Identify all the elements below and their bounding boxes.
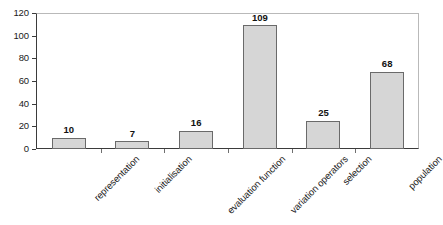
bar-value-label: 7 [130, 129, 135, 139]
y-axis-tick-label: 20 [19, 122, 29, 132]
bar-value-label: 109 [252, 13, 268, 23]
x-axis-labels: representationinitialisationevaluation f… [37, 154, 419, 225]
y-axis-tick-label: 120 [13, 8, 29, 18]
y-axis-tick-label: 0 [24, 144, 29, 154]
x-axis-category-label: representation [93, 154, 142, 203]
y-axis-tick-mark [32, 58, 36, 59]
bar [52, 138, 86, 149]
bar [179, 131, 213, 149]
x-axis-category-label: evaluation function [225, 154, 286, 215]
bar [115, 141, 149, 149]
bar [370, 72, 404, 149]
bar-group: 109 [228, 13, 292, 149]
bar-value-label: 68 [382, 59, 393, 69]
bar-group: 16 [164, 13, 228, 149]
y-axis-tick-mark [32, 81, 36, 82]
x-axis-tick-mark [101, 149, 102, 153]
y-axis-tick-mark [32, 126, 36, 127]
y-axis-tick-label: 40 [19, 99, 29, 109]
y-axis-tick-label: 60 [19, 76, 29, 86]
bar-group: 25 [292, 13, 356, 149]
y-axis: 020406080100120 [0, 0, 36, 162]
x-axis-tick-mark [164, 149, 165, 153]
y-axis-tick-mark [32, 13, 36, 14]
y-axis-tick-mark [32, 104, 36, 105]
bars-layer: 107161092568 [37, 13, 419, 149]
y-axis-tick-label: 80 [19, 54, 29, 64]
x-axis-category-label: initialisation [153, 154, 193, 194]
bar-group: 7 [101, 13, 165, 149]
x-axis-tick-mark [355, 149, 356, 153]
bar [243, 25, 277, 149]
y-axis-tick-mark [32, 36, 36, 37]
x-axis-category-label: variation operators [289, 154, 350, 215]
bar-group: 68 [355, 13, 419, 149]
y-axis-tick-label: 100 [13, 31, 29, 41]
x-axis-tick-mark [228, 149, 229, 153]
x-axis-category-label: population [406, 154, 443, 191]
bar-value-label: 25 [318, 108, 329, 118]
bar-group: 10 [37, 13, 101, 149]
y-axis-tick-mark [32, 149, 36, 150]
bar-value-label: 16 [191, 118, 202, 128]
x-axis-tick-mark [292, 149, 293, 153]
bar-value-label: 10 [64, 125, 75, 135]
bar [306, 121, 340, 149]
